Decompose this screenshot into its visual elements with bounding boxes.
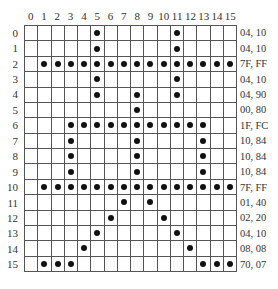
pixel-on	[131, 88, 144, 103]
pixel-off	[224, 103, 237, 118]
hex-code: 08, 08	[240, 241, 278, 256]
pixel-on	[52, 180, 65, 195]
row-header: 5	[2, 102, 22, 117]
pixel-on	[91, 26, 104, 41]
pixel-off	[38, 134, 51, 149]
pixel-off	[144, 211, 157, 226]
pixel-on	[38, 57, 51, 72]
pixel-off	[171, 241, 184, 256]
hex-code: 10, 84	[240, 164, 278, 179]
pixel-off	[38, 118, 51, 133]
pixel-off	[171, 149, 184, 164]
pixel-off	[211, 149, 224, 164]
pixel-off	[91, 134, 104, 149]
pixel-off	[52, 164, 65, 179]
pixel-off	[25, 26, 38, 41]
pixel-off	[25, 72, 38, 87]
pixel-off	[52, 226, 65, 241]
hex-code: 00, 80	[240, 102, 278, 117]
pixel-on	[131, 57, 144, 72]
pixel-off	[25, 149, 38, 164]
pixel-on	[171, 226, 184, 241]
pixel-off	[52, 149, 65, 164]
pixel-off	[65, 103, 78, 118]
pixel-on	[91, 57, 104, 72]
row-header: 15	[2, 257, 22, 272]
pixel-off	[52, 26, 65, 41]
pixel-off	[105, 26, 118, 41]
pixel-off	[224, 164, 237, 179]
pixel-on	[144, 118, 157, 133]
pixel-off	[38, 164, 51, 179]
pixel-off	[25, 164, 38, 179]
pixel-off	[25, 41, 38, 56]
pixel-off	[105, 88, 118, 103]
column-header: 15	[224, 9, 237, 23]
pixel-off	[105, 257, 118, 272]
pixel-off	[158, 88, 171, 103]
pixel-on	[65, 134, 78, 149]
pixel-off	[78, 26, 91, 41]
pixel-off	[52, 134, 65, 149]
pixel-off	[65, 226, 78, 241]
hex-code: 04, 10	[240, 226, 278, 241]
pixel-off	[158, 257, 171, 272]
pixel-on	[131, 164, 144, 179]
pixel-off	[78, 103, 91, 118]
pixel-on	[144, 180, 157, 195]
pixel-off	[184, 149, 197, 164]
pixel-on	[197, 164, 210, 179]
pixel-off	[91, 257, 104, 272]
pixel-off	[78, 211, 91, 226]
pixel-off	[131, 72, 144, 87]
pixel-on	[171, 41, 184, 56]
pixel-off	[171, 257, 184, 272]
pixel-off	[118, 41, 131, 56]
pixel-off	[105, 241, 118, 256]
hex-code: 7F, FF	[240, 179, 278, 194]
pixel-on	[105, 118, 118, 133]
pixel-off	[211, 72, 224, 87]
pixel-off	[158, 226, 171, 241]
pixel-off	[65, 195, 78, 210]
pixel-off	[184, 26, 197, 41]
hex-code: 04, 10	[240, 40, 278, 55]
pixel-on	[171, 88, 184, 103]
pixel-on	[105, 180, 118, 195]
pixel-on	[65, 57, 78, 72]
pixel-on	[171, 72, 184, 87]
hex-code: 10, 84	[240, 133, 278, 148]
pixel-off	[224, 195, 237, 210]
pixel-off	[38, 211, 51, 226]
pixel-off	[105, 164, 118, 179]
column-header: 12	[184, 9, 197, 23]
pixel-on	[197, 134, 210, 149]
pixel-on	[171, 118, 184, 133]
column-header: 5	[91, 9, 104, 23]
hex-code: 04, 10	[240, 71, 278, 86]
pixel-off	[158, 72, 171, 87]
pixel-off	[91, 149, 104, 164]
pixel-off	[118, 164, 131, 179]
pixel-off	[52, 103, 65, 118]
pixel-off	[158, 26, 171, 41]
column-header: 2	[51, 9, 64, 23]
hex-code-column: 04, 1004, 107F, FF04, 1004, 9000, 801F, …	[240, 25, 278, 272]
pixel-off	[184, 134, 197, 149]
pixel-on	[38, 257, 51, 272]
pixel-on	[224, 257, 237, 272]
pixel-off	[38, 88, 51, 103]
pixel-off	[105, 72, 118, 87]
pixel-on	[91, 72, 104, 87]
pixel-off	[131, 226, 144, 241]
pixel-on	[78, 180, 91, 195]
pixel-off	[144, 149, 157, 164]
pixel-off	[25, 103, 38, 118]
pixel-off	[184, 257, 197, 272]
pixel-off	[184, 88, 197, 103]
pixel-off	[171, 211, 184, 226]
pixel-off	[211, 226, 224, 241]
pixel-off	[78, 88, 91, 103]
row-header: 1	[2, 40, 22, 55]
hex-code: 10, 84	[240, 149, 278, 164]
